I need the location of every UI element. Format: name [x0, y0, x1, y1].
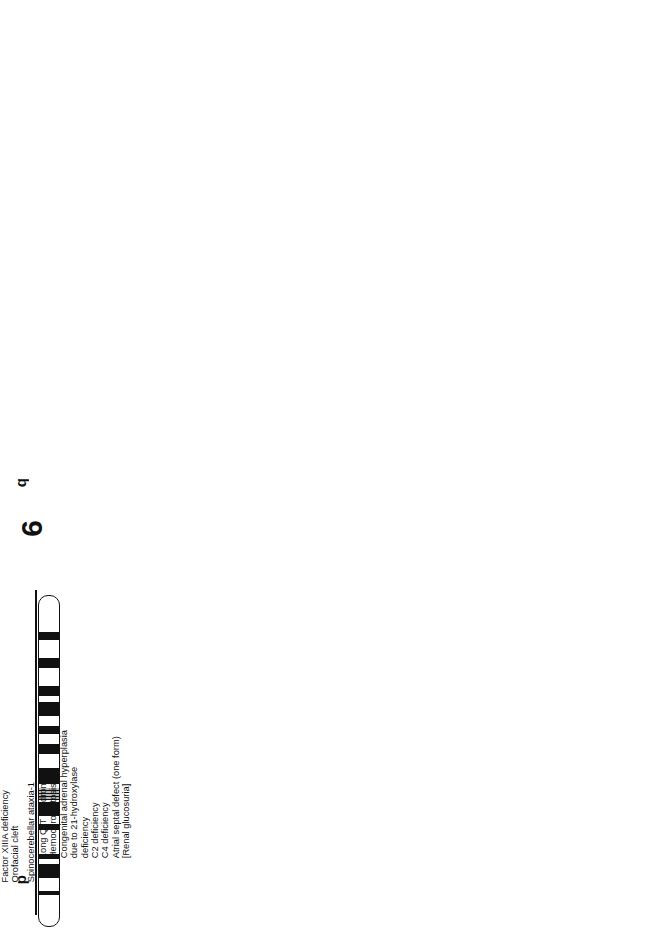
chr6-diseases-3: Long Q-T syndrome Hemochromatosis Congen… — [38, 730, 132, 858]
chr6-number: 6 — [15, 520, 49, 537]
chromosome-map-page: p q 2 1 1 2 25 22 21 12 12 15 16 21 22 2… — [0, 0, 652, 935]
chr6-arm-q: q — [12, 478, 29, 487]
chr6-diseases-2: Spinocerebellar ataxia-1 — [26, 782, 36, 882]
chr6-diseases-1: Factor XIIIA deficiency Orofacial cleft — [0, 790, 21, 883]
